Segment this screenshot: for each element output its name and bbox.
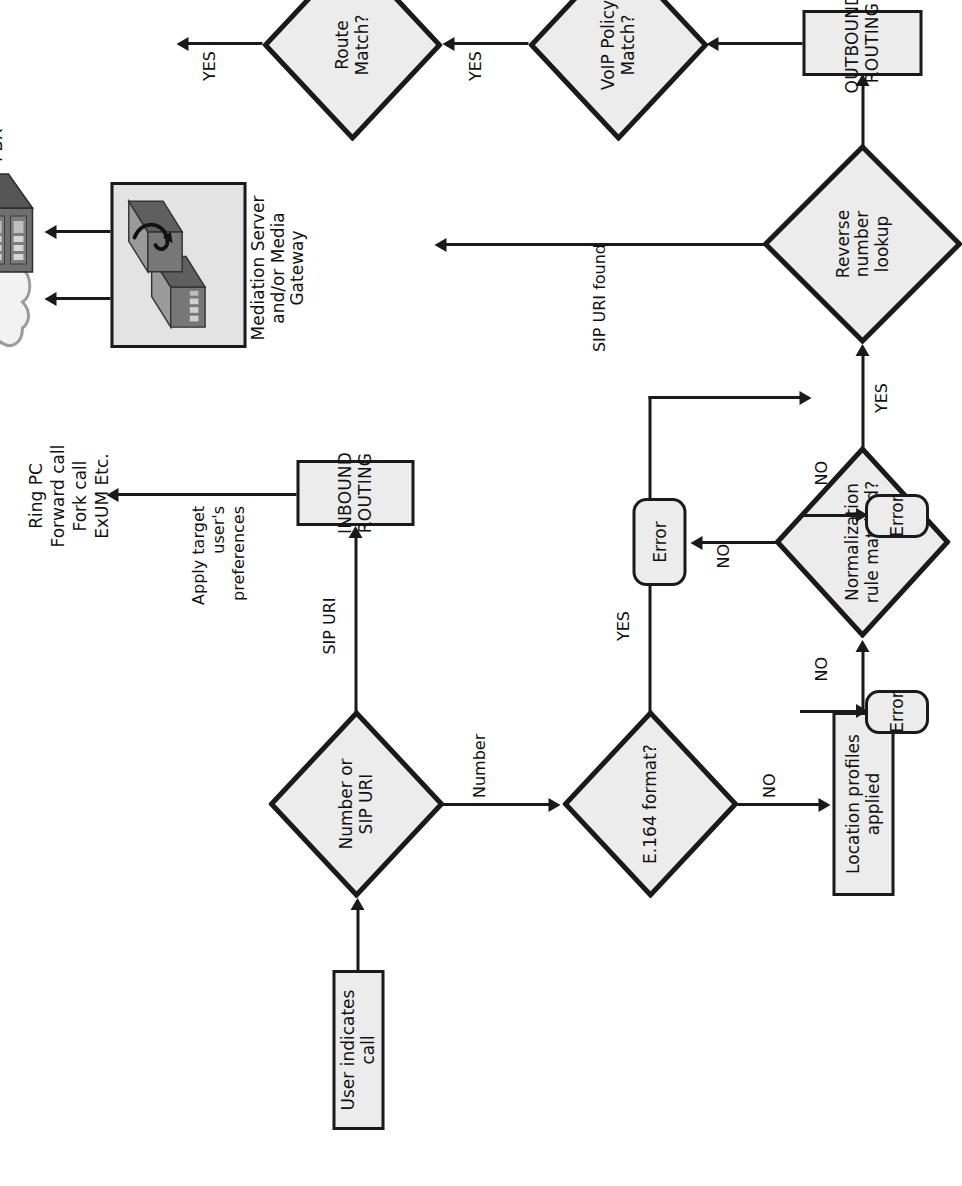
edge-apply-preferences xyxy=(116,493,296,496)
edge-label-sip-uri-found: SIP URI found xyxy=(590,244,608,354)
edge-arrowhead xyxy=(434,238,446,252)
edge-route-yes xyxy=(186,42,262,45)
node-e164-format: E.164 format? xyxy=(562,710,738,898)
edge-arrowhead xyxy=(176,37,188,51)
edge-arrowhead xyxy=(799,391,811,405)
edge-arrowhead xyxy=(350,898,364,910)
edge-mediation-to-pstn xyxy=(54,297,110,300)
edge-e164-no xyxy=(736,803,822,806)
edge-label-e164-no: NO xyxy=(760,748,778,798)
node-route-match: Route Match? xyxy=(262,0,442,141)
edge-loc-to-norm xyxy=(861,650,864,712)
edge-arrowhead xyxy=(855,640,869,652)
edge-arrowhead xyxy=(856,508,868,522)
node-label: VoIP Policy Match? xyxy=(598,0,637,90)
node-label: User indicates call xyxy=(338,977,377,1123)
page-edge-artifact xyxy=(0,0,953,8)
node-location-profiles-applied: Location profiles applied xyxy=(832,712,894,896)
node-error-route: Error xyxy=(865,494,929,538)
edge-arrowhead xyxy=(856,704,868,718)
node-mediation-server-box xyxy=(110,182,246,348)
node-outbound-routing: OUTBOUND ROUTING xyxy=(802,10,922,76)
edge-label-voip-yes: YES xyxy=(466,51,484,101)
edge-voip-yes xyxy=(452,42,528,45)
node-reverse-number-lookup: Reverse number lookup xyxy=(762,144,962,344)
label-pbx: PBX xyxy=(0,102,6,162)
node-label: OUTBOUND ROUTING xyxy=(842,0,881,93)
node-label: Error xyxy=(887,691,907,732)
edge-label-sip-uri: SIP URI xyxy=(320,581,338,671)
edge-arrowhead xyxy=(855,344,869,356)
edge-arrowhead xyxy=(818,798,830,812)
edge-label-norm-no: NO xyxy=(714,544,732,590)
edge-e164-yes-v xyxy=(648,396,803,399)
node-label: Number or SIP URI xyxy=(336,758,375,849)
node-label: Error xyxy=(649,521,669,562)
mediation-server-icon xyxy=(113,191,237,345)
label-call-actions: Ring PC Forward call Fork call ExUM Etc. xyxy=(24,416,112,576)
edge-norm-no xyxy=(700,541,778,544)
edge-norm-yes xyxy=(861,354,864,448)
edge-label-voip-no: NO xyxy=(813,643,831,695)
node-label: Location profiles applied xyxy=(843,734,882,874)
node-inbound-routing: INBOUND ROUTING xyxy=(296,460,414,526)
node-label: Error xyxy=(887,495,907,536)
node-error-voip-policy: Error xyxy=(865,690,929,734)
edge-label-number: Number xyxy=(470,718,488,798)
edge-arrowhead xyxy=(690,536,702,550)
node-user-indicates-call: User indicates call xyxy=(332,970,384,1130)
edge-label-e164-yes: YES xyxy=(614,596,632,656)
edge-arrowhead xyxy=(548,798,560,812)
edge-label-norm-yes: YES xyxy=(872,370,890,426)
edge-user-to-decision xyxy=(356,908,359,970)
server-stack-icon xyxy=(0,166,46,278)
label-mediation-server: Mediation Server and/or Media Gateway xyxy=(248,168,307,368)
node-label: INBOUND ROUTING xyxy=(335,452,374,534)
edge-label-apply-preferences: Apply target user's preferences xyxy=(188,506,248,626)
edge-label-route-yes: YES xyxy=(200,51,218,101)
edge-label-route-no: NO xyxy=(813,447,831,499)
edge-arrowhead xyxy=(442,37,454,51)
node-number-or-sip-uri: Number or SIP URI xyxy=(268,710,444,898)
node-pbx xyxy=(0,166,46,278)
edge-mediation-to-pbx xyxy=(54,230,110,233)
edge-outbound-to-voip xyxy=(716,42,802,45)
edge-voip-no-arrow xyxy=(800,710,858,713)
edge-route-no-arrow xyxy=(800,514,858,517)
node-normalization-rule-matched: Normalization rule matched? xyxy=(774,446,950,638)
node-label: Reverse number lookup xyxy=(833,210,892,278)
edge-sip-uri xyxy=(354,536,357,712)
node-label: Route Match? xyxy=(332,15,371,76)
edge-number xyxy=(442,803,552,806)
node-error-normalization: Error xyxy=(632,498,686,586)
node-label: E.164 format? xyxy=(640,744,660,864)
node-voip-policy-match: VoIP Policy Match? xyxy=(528,0,708,141)
